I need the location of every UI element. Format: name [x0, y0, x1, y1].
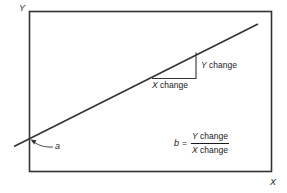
line-graph-figure [0, 0, 287, 193]
formula-fraction: Y change X change [191, 131, 229, 155]
formula-denominator: X change [191, 145, 229, 156]
formula-variable: b [174, 138, 179, 148]
formula-equals: = [182, 138, 187, 148]
run-label: X change [152, 81, 188, 90]
rise-label: Y change [201, 61, 237, 70]
formula-numerator: Y change [191, 131, 229, 142]
y-axis-label: Y [19, 4, 25, 13]
x-axis-label: X [270, 178, 276, 187]
intercept-label: a [55, 142, 60, 151]
slope-formula: b = Y change X change [174, 131, 229, 155]
fraction-bar [191, 143, 229, 144]
